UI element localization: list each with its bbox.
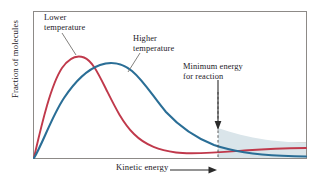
distribution-plot — [0, 0, 322, 184]
maxwell-boltzmann-figure: Lower temperature Higher temperature Min… — [0, 0, 322, 184]
right-arrow-icon — [170, 167, 217, 174]
y-axis-label: Fraction of molecules — [10, 6, 20, 112]
